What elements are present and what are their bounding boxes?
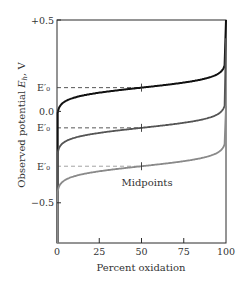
y-axis-title: Observed potential Eh, V [16, 62, 29, 188]
y-tick-label: +0.5 [31, 15, 54, 26]
e0-label-1: E′₀ [37, 82, 50, 93]
e0-label-3: E′₀ [37, 161, 50, 172]
x-tick-label: 100 [217, 246, 235, 257]
e0-labels: E′₀E′₀E′₀ [37, 82, 50, 172]
y-axis-ticks: +0.50.0−0.5 [31, 15, 61, 209]
x-tick-label: 75 [178, 246, 190, 257]
x-axis-ticks: 0255075100 [54, 238, 235, 257]
y-tick-label: 0.0 [39, 106, 54, 117]
e0-label-2: E′₀ [37, 122, 50, 133]
redox-titration-chart: +0.50.0−0.5 0255075100 E′₀E′₀E′₀ Observe… [0, 0, 242, 289]
midpoints-annotation: Midpoints [121, 177, 172, 188]
x-axis-title: Percent oxidation [96, 262, 186, 273]
x-tick-label: 0 [54, 246, 60, 257]
curve-2 [58, 38, 226, 243]
y-tick-label: −0.5 [31, 197, 54, 208]
x-tick-label: 25 [93, 246, 105, 257]
x-tick-label: 50 [135, 246, 147, 257]
